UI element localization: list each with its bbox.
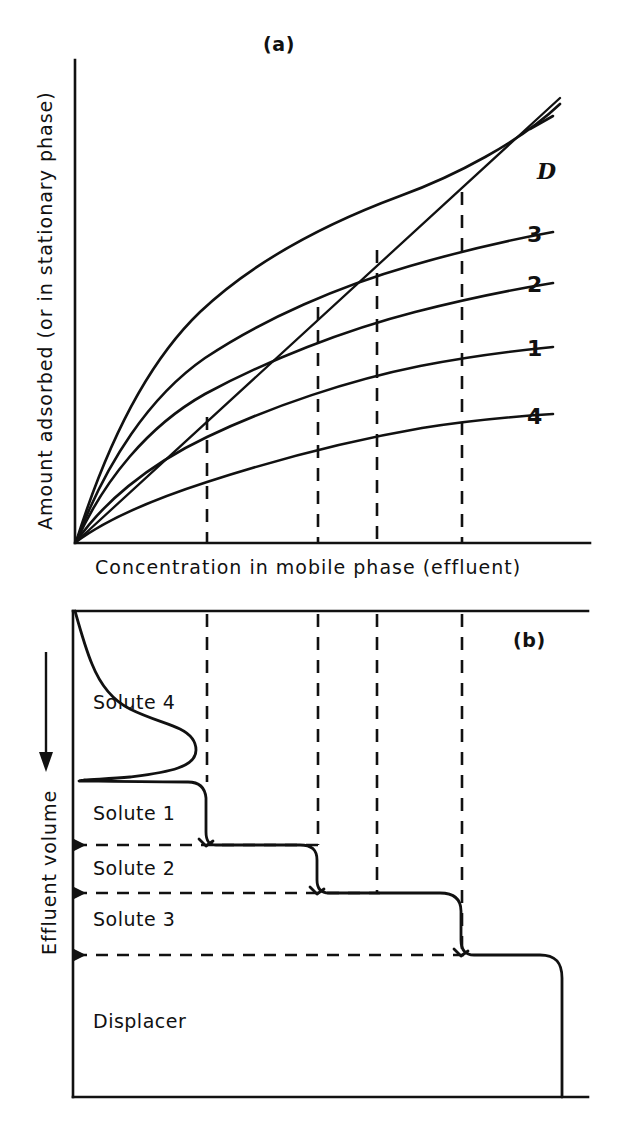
zone-label-solute-1: Solute 1 [93, 802, 175, 824]
zone-label-displacer: Displacer [93, 1010, 186, 1032]
zone-label-solute-3: Solute 3 [93, 908, 175, 930]
zone-label-solute-4: Solute 4 [93, 691, 175, 713]
panel-b-y-axis-label: Effluent volume [38, 790, 60, 955]
effluent-volume-arrow-head [39, 752, 53, 772]
figure-root: (a) Amount adsorbed (or in stationary ph… [0, 0, 622, 1135]
panel-b-graphics [0, 0, 622, 1135]
boundary-arrow-1 [74, 839, 86, 851]
boundary-arrow-3 [74, 949, 86, 961]
boundary-arrow-2 [74, 887, 86, 899]
zone-label-solute-2: Solute 2 [93, 857, 175, 879]
panel-b-tag: (b) [513, 629, 546, 651]
